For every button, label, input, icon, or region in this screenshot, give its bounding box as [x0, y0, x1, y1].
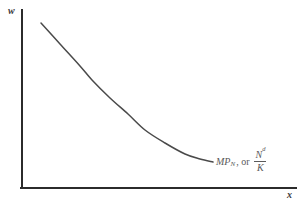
- fraction-numerator: Nd: [254, 149, 266, 161]
- fraction-denominator: K: [256, 162, 265, 173]
- fraction-numerator-superscript: d: [262, 145, 265, 152]
- curve-annotation-fraction: Nd K: [254, 149, 266, 173]
- curve-annotation-main: MP: [216, 157, 230, 167]
- y-axis-label: w: [8, 6, 15, 16]
- mpn-curve: [41, 23, 213, 162]
- curve-annotation: MPN, or Nd K: [216, 150, 266, 174]
- curve-annotation-connector: , or: [236, 157, 249, 167]
- x-axis-label: x: [287, 190, 292, 200]
- curve-annotation-subscript: N: [230, 161, 235, 168]
- figure-container: w x MPN, or Nd K: [0, 0, 303, 205]
